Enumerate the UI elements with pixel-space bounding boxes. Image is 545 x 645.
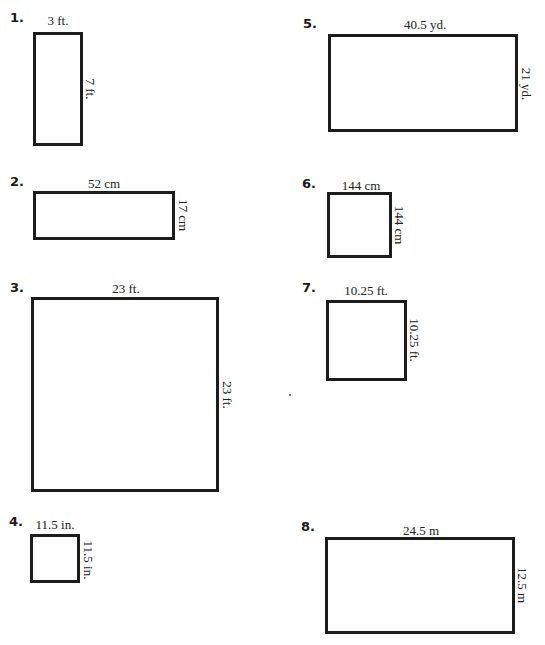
problem-number: 2. <box>10 175 24 188</box>
problem-number: 1. <box>10 11 24 24</box>
height-label: 7 ft. <box>84 79 97 100</box>
height-label: 11.5 in. <box>82 541 95 580</box>
square-shape <box>326 300 407 381</box>
rectangle-shape <box>328 34 518 132</box>
width-label: 11.5 in. <box>36 518 75 531</box>
width-label: 52 cm <box>88 177 120 190</box>
width-label: 144 cm <box>342 179 381 192</box>
height-label: 144 cm <box>393 206 406 245</box>
square-shape <box>30 534 80 583</box>
width-label: 10.25 ft. <box>344 284 388 297</box>
width-label: 3 ft. <box>48 14 69 27</box>
problem-number: 6. <box>302 177 316 190</box>
width-label: 24.5 m <box>403 524 439 537</box>
width-label: 40.5 yd. <box>404 18 446 31</box>
problem-number: 4. <box>9 515 23 528</box>
problem-number: 7. <box>302 281 316 294</box>
problem-number: 8. <box>301 520 315 533</box>
rectangle-shape <box>33 191 175 240</box>
width-label: 23 ft. <box>112 282 139 295</box>
problem-number: 3. <box>10 281 24 294</box>
height-label: 17 cm <box>177 199 190 231</box>
rectangle-shape <box>325 537 515 634</box>
height-label: 10.25 ft. <box>408 318 421 362</box>
square-shape <box>31 297 219 492</box>
scan-speck <box>289 394 291 396</box>
height-label: 12.5 m <box>516 567 529 603</box>
height-label: 21 yd. <box>520 68 533 101</box>
height-label: 23 ft. <box>221 381 234 408</box>
square-shape <box>327 192 392 258</box>
problem-number: 5. <box>303 17 317 30</box>
rectangle-shape <box>33 32 83 146</box>
